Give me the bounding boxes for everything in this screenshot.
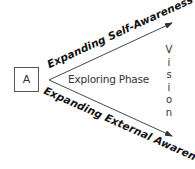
vision-letter: i <box>163 57 175 70</box>
lower-arrow-line <box>49 80 172 136</box>
vision-letter: n <box>163 107 175 120</box>
vision-label: V i s i o n <box>163 44 175 119</box>
start-box-label: A <box>23 73 31 86</box>
center-phase-label: Exploring Phase <box>68 73 149 85</box>
vision-letter: o <box>163 94 175 107</box>
vision-letter: s <box>163 69 175 82</box>
start-box: A <box>14 67 39 92</box>
diagram-canvas: A Expanding Self-Awareness Expanding Ext… <box>0 0 195 169</box>
vision-letter: i <box>163 82 175 95</box>
vision-letter: V <box>163 44 175 57</box>
